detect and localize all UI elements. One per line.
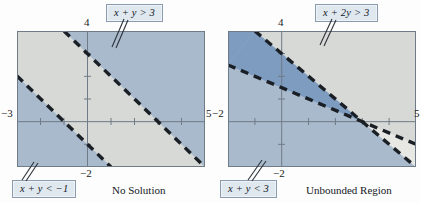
y-axis-label-right-min: −2 xyxy=(273,168,285,179)
label-chip-lower-right: x + y < 3 xyxy=(220,180,277,198)
plot-svg-right xyxy=(228,31,416,167)
label-chip-upper-right: x + 2y > 3 xyxy=(315,4,378,22)
label-chip-upper-right-text: x + 2y > 3 xyxy=(323,7,370,18)
panel-no-solution: −3 5 4 −2 x + y > 3 x + y < −1 No Soluti… xyxy=(0,0,210,203)
x-axis-label-right-min: −2 xyxy=(212,108,224,119)
label-chip-lower-left-text: x + y < −1 xyxy=(20,183,68,194)
y-axis-label-right-max: 4 xyxy=(278,17,284,28)
label-chip-lower-right-text: x + y < 3 xyxy=(228,183,269,194)
inequalities-figure: −3 5 4 −2 x + y > 3 x + y < −1 No Soluti… xyxy=(0,0,421,203)
y-axis-label-left-min: −2 xyxy=(80,168,92,179)
label-chip-upper-left-text: x + y > 3 xyxy=(114,7,155,18)
label-chip-upper-left: x + y > 3 xyxy=(106,4,163,22)
label-chip-lower-left: x + y < −1 xyxy=(12,180,76,198)
y-axis-label-left-max: 4 xyxy=(84,17,90,28)
plot-area-right xyxy=(228,31,416,167)
caption-right: Unbounded Region xyxy=(306,184,392,196)
x-axis-label-left-min: −3 xyxy=(1,108,13,119)
plot-area-left xyxy=(17,31,205,167)
panel-unbounded-region: −2 5 4 −2 x + 2y > 3 x + y < 3 Unbounded… xyxy=(210,0,421,203)
x-axis-label-right-max: 5 xyxy=(414,108,420,119)
caption-left: No Solution xyxy=(112,184,165,196)
plot-svg-left xyxy=(17,31,205,167)
